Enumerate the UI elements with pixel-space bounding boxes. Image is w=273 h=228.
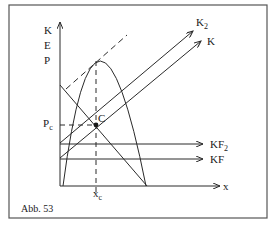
y-label-p: P: [44, 54, 50, 66]
pc-label: Pc: [43, 117, 53, 132]
price-line: [60, 85, 147, 186]
diagram-canvas: K E P C Pc xc x K2 K KF2 KF Abb. 53: [0, 0, 273, 228]
figure-caption: Abb. 53: [21, 203, 53, 214]
xc-label: xc: [93, 187, 103, 202]
k-line: [60, 41, 201, 158]
x-axis-label: x: [223, 180, 229, 192]
point-c-label: C: [98, 112, 105, 124]
k-label: K: [207, 35, 215, 47]
y-label-e: E: [44, 39, 51, 51]
k2-line: [60, 31, 193, 143]
kf2-label: KF2: [210, 138, 228, 153]
y-label-k: K: [44, 24, 52, 36]
k2-label: K2: [196, 16, 208, 31]
kf-label: KF: [210, 153, 224, 165]
